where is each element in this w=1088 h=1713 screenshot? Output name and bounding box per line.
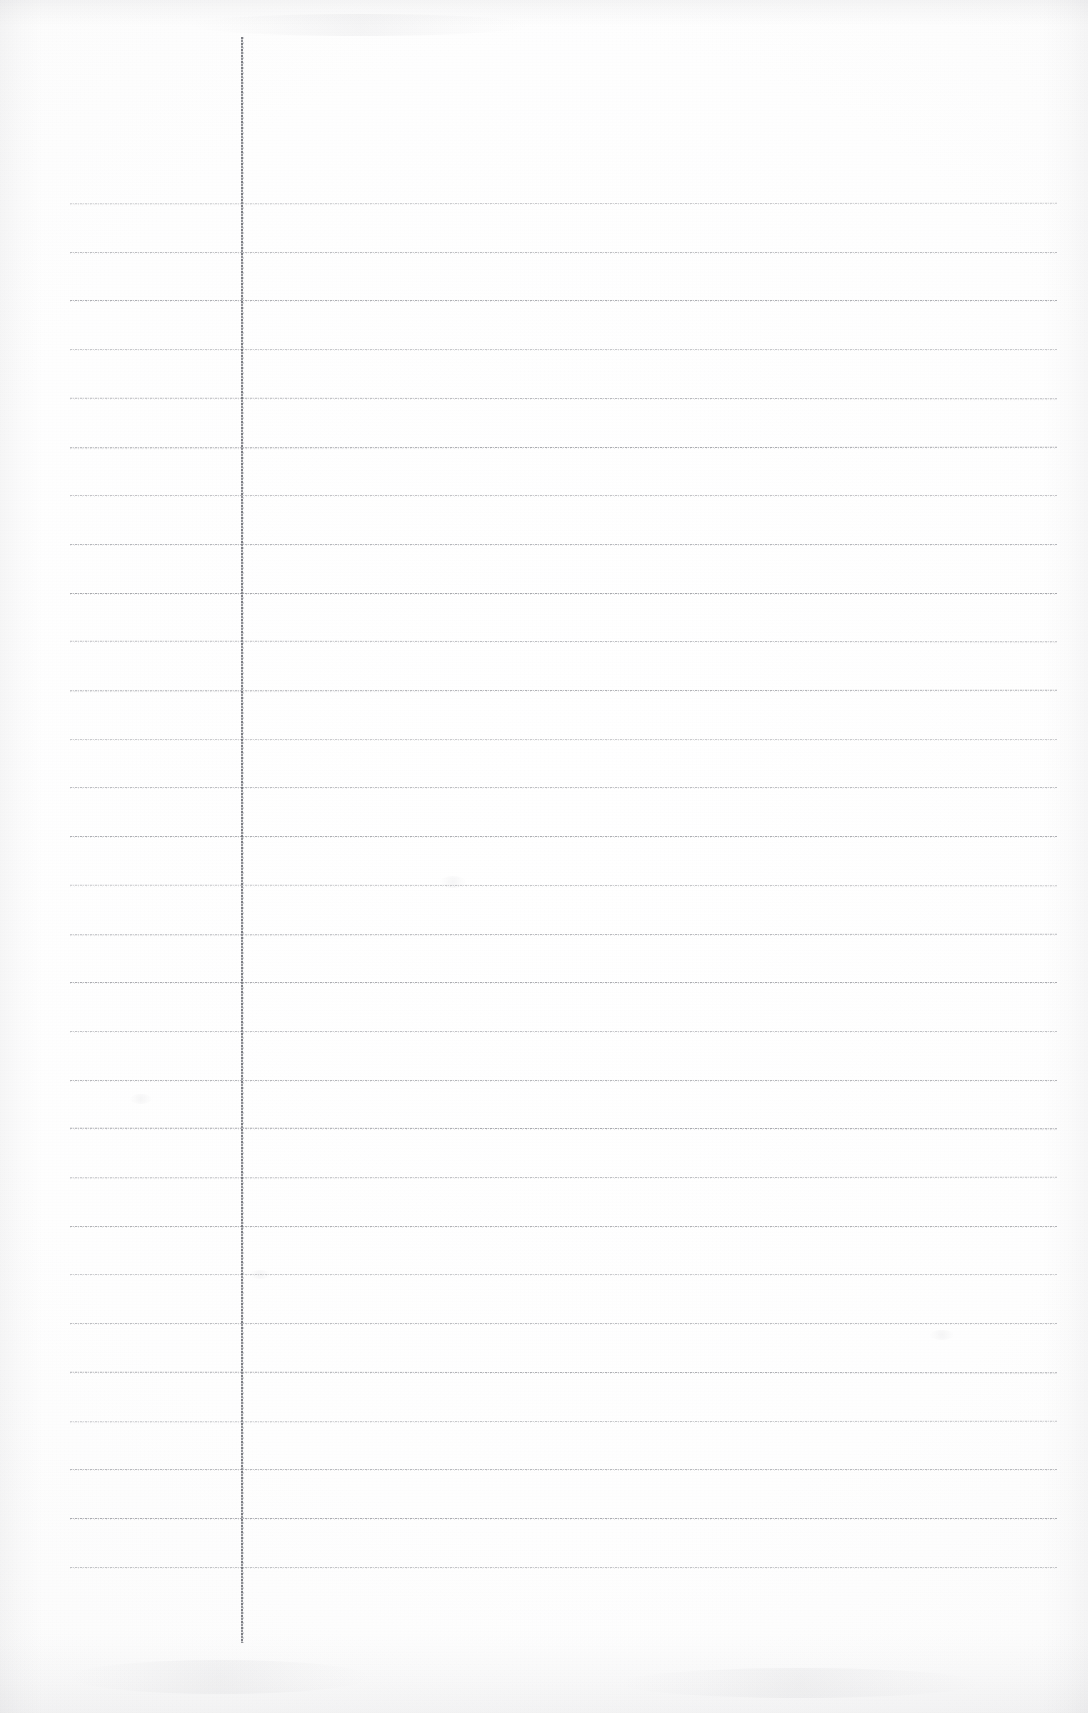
scan-shadow-left	[0, 0, 42, 1713]
scan-shadow-top	[0, 0, 1088, 26]
scan-shadow-right	[1042, 0, 1088, 1713]
scan-shadow-bottom	[0, 1633, 1088, 1713]
writing-area[interactable]	[0, 0, 1088, 1713]
scanned-page	[0, 0, 1088, 1713]
